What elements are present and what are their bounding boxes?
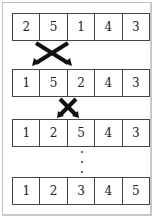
array-cell: 4 [95,178,122,204]
array-row-2: 1 5 2 4 3 [12,69,150,97]
array-cell: 3 [123,70,149,96]
array-cell: 2 [40,178,67,204]
ellipsis-icon [80,151,83,173]
array-row-1: 2 5 1 4 3 [12,13,150,41]
array-cell: 1 [13,178,40,204]
cross-arrows-icon [30,41,74,67]
array-row-3: 1 2 5 4 3 [12,119,150,147]
array-cell: 4 [95,70,122,96]
array-cell: 5 [40,70,67,96]
array-cell: 5 [123,178,149,204]
array-row-4: 1 2 3 4 5 [12,177,150,205]
array-cell: 3 [123,120,149,146]
array-cell: 2 [40,120,67,146]
array-cell: 3 [68,178,95,204]
array-cell: 4 [95,120,122,146]
array-cell: 2 [13,14,40,40]
array-cell: 5 [40,14,67,40]
cross-arrows-icon [57,97,79,119]
array-cell: 4 [95,14,122,40]
array-cell: 1 [13,70,40,96]
array-cell: 2 [68,70,95,96]
array-cell: 1 [68,14,95,40]
array-cell: 1 [13,120,40,146]
array-cell: 5 [68,120,95,146]
array-cell: 3 [123,14,149,40]
